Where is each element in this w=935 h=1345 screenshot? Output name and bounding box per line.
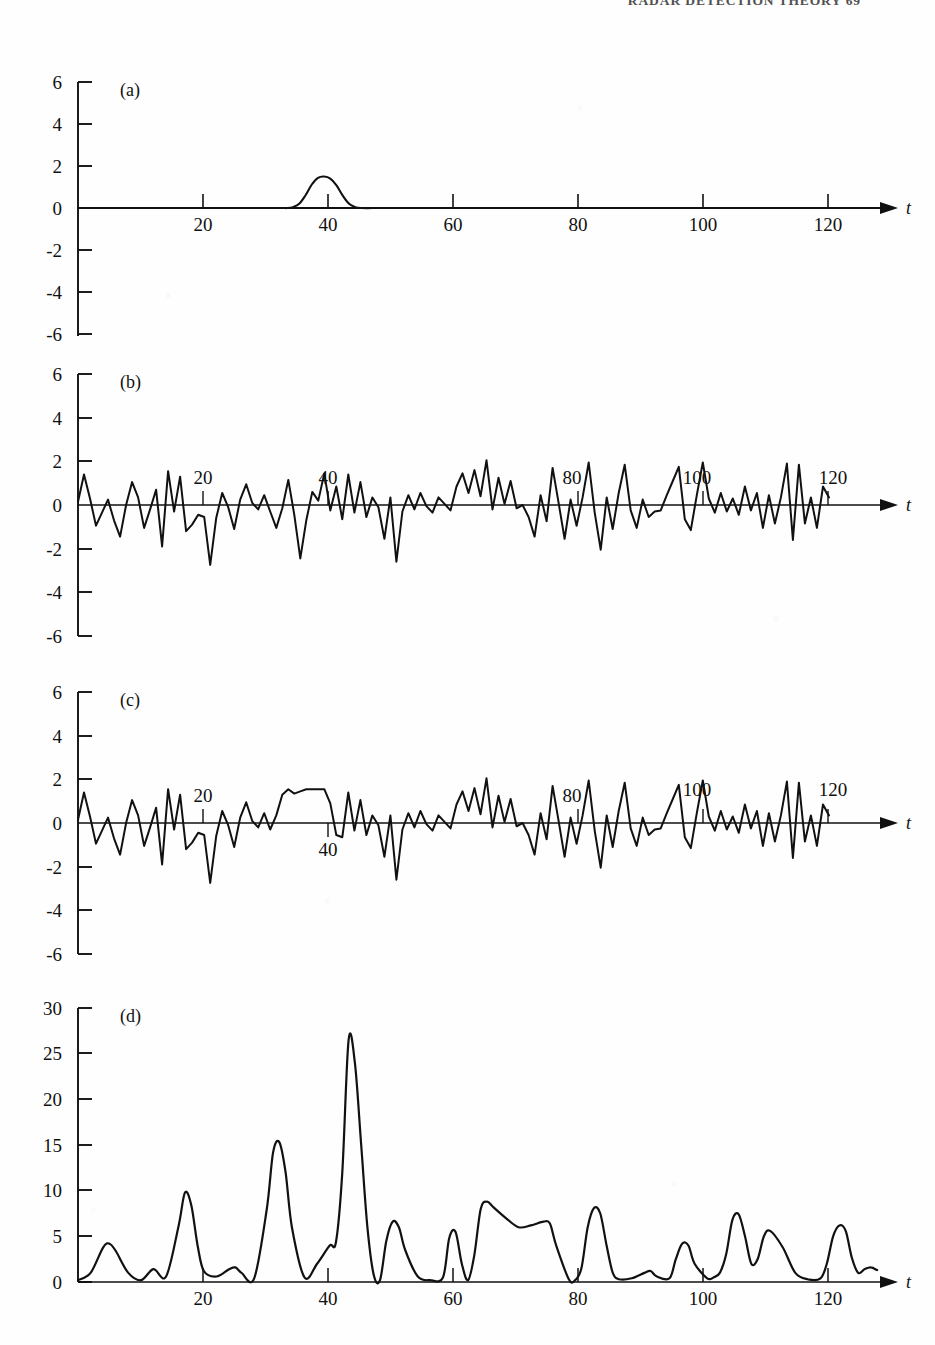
x-label-120-c: 120 — [819, 779, 848, 800]
x-label-20-b: 20 — [194, 467, 213, 488]
panel-c: 6 4 2 0 -2 -4 -6 20 40 80 100 120 (c) t — [0, 678, 935, 978]
x-axis-label-b: t — [906, 495, 912, 515]
page-canvas: RADAR DETECTION THEORY 69 — [0, 0, 935, 1345]
y-label-0-b: 0 — [53, 495, 63, 516]
panel-tag-c: (c) — [120, 690, 140, 711]
x-axis-arrow-a — [880, 202, 898, 214]
y-label-5-d: 5 — [53, 1226, 63, 1247]
y-label-4-c: 4 — [53, 726, 63, 747]
x-label-120-a: 120 — [814, 214, 843, 235]
x-label-80-d: 80 — [569, 1288, 588, 1309]
y-label-0-a: 0 — [53, 198, 63, 219]
panel-tag-b: (b) — [120, 372, 141, 393]
y-label-2-c: 2 — [53, 769, 63, 790]
x-label-100-d: 100 — [689, 1288, 718, 1309]
y-label-20-d: 20 — [43, 1089, 62, 1110]
y-label-25-d: 25 — [43, 1043, 62, 1064]
panel-tag-d: (d) — [120, 1006, 141, 1027]
x-label-20-a: 20 — [194, 214, 213, 235]
panel-a-y-tick-labels: 6 4 2 0 -2 -4 -6 — [46, 72, 62, 345]
y-label-n4-b: -4 — [46, 582, 62, 603]
y-label-0-c: 0 — [53, 813, 63, 834]
running-head: RADAR DETECTION THEORY 69 — [628, 0, 861, 9]
panel-c-axes — [78, 692, 898, 954]
y-label-6-c: 6 — [53, 682, 63, 703]
panel-a-x-tick-labels: 20 40 60 80 100 120 — [194, 214, 843, 235]
y-label-n6-c: -6 — [46, 944, 62, 965]
x-label-40-a: 40 — [319, 214, 338, 235]
y-label-n4-a: -4 — [46, 282, 62, 303]
panel-d-svg: 30 25 20 15 10 5 0 20 40 60 80 100 120 (… — [0, 990, 935, 1320]
x-axis-arrow-b — [880, 499, 898, 511]
panel-d-y-tick-labels: 30 25 20 15 10 5 0 — [43, 998, 62, 1293]
y-label-30-d: 30 — [43, 998, 62, 1019]
signal-pulse-a — [78, 176, 866, 208]
y-label-2-a: 2 — [53, 156, 63, 177]
y-label-n2-b: -2 — [46, 539, 62, 560]
y-label-n6-a: -6 — [46, 324, 62, 345]
x-label-20-d: 20 — [194, 1288, 213, 1309]
x-axis-label-c: t — [906, 813, 912, 833]
x-label-40-d: 40 — [319, 1288, 338, 1309]
panel-b-svg: 6 4 2 0 -2 -4 -6 20 40 80 100 120 (b) t — [0, 360, 935, 660]
y-label-n6-b: -6 — [46, 626, 62, 647]
noise-trace-b — [78, 460, 829, 565]
x-label-80-a: 80 — [569, 214, 588, 235]
y-label-6-b: 6 — [53, 364, 63, 385]
x-label-20-c: 20 — [194, 785, 213, 806]
y-label-10-d: 10 — [43, 1180, 62, 1201]
panel-a-svg: 6 4 2 0 -2 -4 -6 20 40 60 80 100 120 (a)… — [0, 34, 935, 334]
x-label-40-c: 40 — [319, 839, 338, 860]
panel-d-x-tick-labels: 20 40 60 80 100 120 — [194, 1288, 843, 1309]
y-label-15-d: 15 — [43, 1135, 62, 1156]
panel-tag-a: (a) — [120, 80, 140, 101]
y-label-4-a: 4 — [53, 114, 63, 135]
panel-a: 6 4 2 0 -2 -4 -6 20 40 60 80 100 120 (a)… — [0, 34, 935, 334]
y-label-0-d: 0 — [53, 1272, 63, 1293]
x-axis-arrow-c — [880, 817, 898, 829]
panel-c-svg: 6 4 2 0 -2 -4 -6 20 40 80 100 120 (c) t — [0, 678, 935, 978]
x-axis-label-d: t — [906, 1272, 912, 1292]
x-label-120-d: 120 — [814, 1288, 843, 1309]
panel-b-axes — [78, 374, 898, 636]
panel-d: 30 25 20 15 10 5 0 20 40 60 80 100 120 (… — [0, 990, 935, 1320]
panel-b: 6 4 2 0 -2 -4 -6 20 40 80 100 120 (b) t — [0, 360, 935, 660]
panel-c-y-tick-labels: 6 4 2 0 -2 -4 -6 — [46, 682, 62, 965]
x-label-80-c: 80 — [563, 785, 582, 806]
x-axis-label-a: t — [906, 198, 912, 218]
matched-filter-output-trace-d — [78, 1033, 877, 1283]
y-label-n2-c: -2 — [46, 857, 62, 878]
x-label-100-a: 100 — [689, 214, 718, 235]
panel-d-axes — [78, 1008, 898, 1288]
panel-b-x-tick-labels: 20 40 80 100 120 — [194, 467, 848, 488]
x-label-80-b: 80 — [563, 467, 582, 488]
panel-b-y-tick-labels: 6 4 2 0 -2 -4 -6 — [46, 364, 62, 647]
y-label-n2-a: -2 — [46, 240, 62, 261]
x-label-100-c: 100 — [683, 779, 712, 800]
x-axis-arrow-d — [880, 1276, 898, 1288]
signal-plus-noise-trace-c — [78, 778, 829, 883]
x-label-60-d: 60 — [444, 1288, 463, 1309]
y-label-4-b: 4 — [53, 408, 63, 429]
x-label-120-b: 120 — [819, 467, 848, 488]
x-label-60-a: 60 — [444, 214, 463, 235]
y-label-2-b: 2 — [53, 451, 63, 472]
y-label-n4-c: -4 — [46, 900, 62, 921]
y-label-6-a: 6 — [53, 72, 63, 93]
